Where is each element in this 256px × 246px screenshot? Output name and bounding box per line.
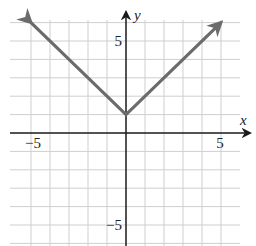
x-axis-label: x: [239, 112, 247, 128]
y-axis-label: y: [132, 7, 141, 23]
y-tick-label: 5: [115, 33, 123, 49]
coordinate-plane: −555−5 x y: [0, 0, 256, 246]
y-tick-label: −5: [106, 217, 122, 233]
x-tick-label: 5: [216, 135, 224, 151]
axes: [10, 12, 250, 246]
x-tick-label: −5: [25, 135, 41, 151]
